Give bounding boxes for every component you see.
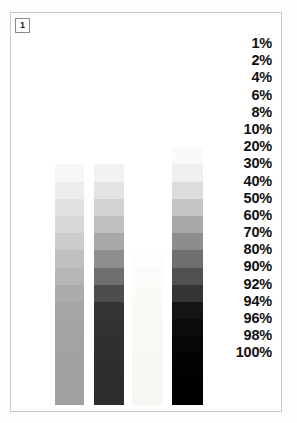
tone-step-swatch [132,353,163,370]
percentage-label: 100% [186,344,272,361]
tone-step-swatch [55,216,84,233]
percentage-label: 4% [186,69,272,86]
tone-step-swatch [94,268,124,285]
percentage-label: 20% [186,138,272,155]
tone-step-swatch [94,164,124,181]
tone-step-swatch [132,371,163,388]
tone-step-swatch [94,319,124,336]
tone-step-swatch [94,216,124,233]
percentage-label: 92% [186,276,272,293]
tone-step-swatch [94,388,124,405]
percentage-label: 94% [186,293,272,310]
percentage-label: 2% [186,52,272,69]
page-number-label: 1 [20,21,25,30]
tone-step-swatch [55,199,84,216]
tone-step-swatch [55,336,84,353]
tone-step-swatch [55,319,84,336]
percentage-label: 80% [186,241,272,258]
tone-step-swatch [94,182,124,199]
tone-step-swatch [132,319,163,336]
percentage-label: 50% [186,190,272,207]
tone-step-swatch [55,302,84,319]
tone-step-swatch [132,285,163,302]
tone-step-swatch [132,250,163,267]
tone-step-swatch [94,233,124,250]
tone-step-swatch [94,250,124,267]
percentage-label: 30% [186,155,272,172]
tone-step-swatch [55,164,84,181]
tone-ramp-bar-1 [55,164,84,405]
print-test-sheet: 1 1%2%4%6%8%10%20%30%40%50%60%70%80%90%9… [0,0,297,423]
percentage-label: 6% [186,87,272,104]
tone-step-swatch [55,233,84,250]
tone-step-swatch [55,388,84,405]
tone-step-swatch [132,268,163,285]
tone-step-swatch [172,388,203,405]
tone-step-swatch [55,268,84,285]
percentage-label: 98% [186,327,272,344]
percentage-label: 1% [186,35,272,52]
tone-step-swatch [55,285,84,302]
percentage-label: 40% [186,173,272,190]
tone-step-swatch [94,353,124,370]
page-number-badge: 1 [15,18,30,33]
tone-step-swatch [94,336,124,353]
percentage-label-column: 1%2%4%6%8%10%20%30%40%50%60%70%80%90%92%… [186,35,272,362]
tone-step-swatch [132,302,163,319]
tone-step-swatch [55,250,84,267]
tone-step-swatch [132,336,163,353]
tone-step-swatch [55,182,84,199]
tone-ramp-bar-3 [132,250,163,405]
tone-step-swatch [55,353,84,370]
tone-step-swatch [132,388,163,405]
percentage-label: 96% [186,310,272,327]
percentage-label: 60% [186,207,272,224]
tone-step-swatch [94,285,124,302]
percentage-label: 8% [186,104,272,121]
tone-step-swatch [94,371,124,388]
tone-step-swatch [55,371,84,388]
percentage-label: 10% [186,121,272,138]
tone-step-swatch [94,302,124,319]
tone-step-swatch [94,199,124,216]
test-page: 1 1%2%4%6%8%10%20%30%40%50%60%70%80%90%9… [10,12,282,412]
percentage-label: 70% [186,224,272,241]
tone-ramp-bar-2 [94,164,124,405]
tone-step-swatch [172,371,203,388]
percentage-label: 90% [186,258,272,275]
